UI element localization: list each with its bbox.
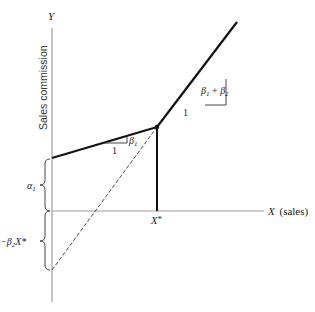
slope2-run-label: 1 xyxy=(183,107,188,118)
slope1-run-label: 1 xyxy=(112,145,117,156)
x-star-label: X* xyxy=(150,214,162,226)
brace-neg-beta2-xstar xyxy=(40,211,50,270)
piecewise-linear-commission-diagram: Y Sales commission X (sales) X* 1 β1 1 β… xyxy=(0,0,315,312)
segment-high-slope xyxy=(157,22,237,127)
diagram-svg: Y Sales commission X (sales) X* 1 β1 1 β… xyxy=(0,0,315,312)
brace-alpha xyxy=(40,159,50,211)
kink-point xyxy=(155,125,159,129)
slope2-rise-label: β1 + β2 xyxy=(200,85,229,98)
x-star-mark: * xyxy=(157,214,162,224)
x-axis-unit: (sales) xyxy=(279,205,308,218)
dashed-extension-line xyxy=(52,127,157,270)
alpha-sub: 1 xyxy=(32,185,36,193)
neg-xstar: X* xyxy=(14,236,26,247)
x-axis-title: X (sales) xyxy=(267,205,309,218)
beta2-sub: 2 xyxy=(225,90,229,98)
neg-beta2-xstar-label: −β2X* xyxy=(0,236,26,249)
alpha-label: α1 xyxy=(27,180,36,193)
plus-sign: + xyxy=(209,85,220,96)
slope1-rise-label: β1 xyxy=(128,135,137,148)
neg-beta-symbol: −β xyxy=(0,236,12,247)
y-axis-title: Sales commission xyxy=(37,45,49,130)
y-axis-label: Y xyxy=(48,10,56,22)
x-axis-symbol: X xyxy=(267,205,276,217)
beta-sub: 1 xyxy=(134,140,138,148)
segment-low-slope xyxy=(52,127,157,158)
